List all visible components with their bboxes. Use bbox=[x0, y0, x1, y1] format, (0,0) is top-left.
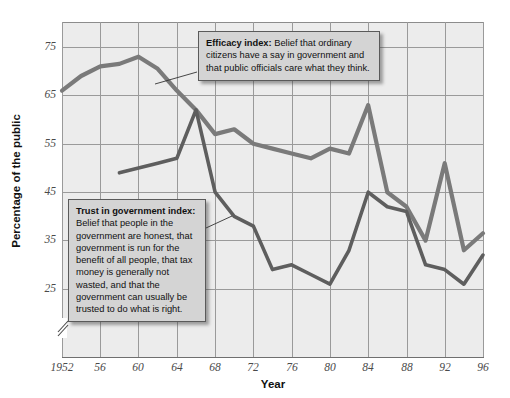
callout-efficacy-title: Efficacy index: bbox=[206, 38, 272, 48]
x-tick-1988: 88 bbox=[389, 361, 425, 373]
x-tick-1968: 68 bbox=[197, 361, 233, 373]
y-tick-75: 75 bbox=[28, 40, 56, 52]
x-tick-1960: 60 bbox=[120, 361, 156, 373]
chart-figure: 75 65 55 45 35 25 1952 56 60 64 68 72 76… bbox=[0, 0, 510, 398]
x-tick-1996: 96 bbox=[465, 361, 501, 373]
y-axis-title: Percentage of the public bbox=[10, 101, 22, 261]
x-tick-1972: 72 bbox=[235, 361, 271, 373]
x-tick-1964: 64 bbox=[159, 361, 195, 373]
y-tick-65: 65 bbox=[28, 88, 56, 100]
leader-line-trust bbox=[206, 216, 232, 228]
y-tick-35: 35 bbox=[28, 233, 56, 245]
x-tick-1984: 84 bbox=[350, 361, 386, 373]
x-tick-1992: 92 bbox=[427, 361, 463, 373]
callout-trust: Trust in government index: Belief that p… bbox=[68, 199, 206, 322]
y-tick-25: 25 bbox=[28, 282, 56, 294]
callout-trust-body: Belief that people in the government are… bbox=[76, 218, 192, 314]
callout-trust-title: Trust in government index: bbox=[76, 206, 195, 216]
y-axis-ticks: 75 65 55 45 35 25 bbox=[20, 0, 56, 398]
x-axis-title: Year bbox=[62, 378, 484, 390]
leader-line-efficacy bbox=[155, 72, 197, 84]
y-tick-55: 55 bbox=[28, 137, 56, 149]
callout-efficacy: Efficacy index: Belief that ordinary cit… bbox=[198, 31, 380, 81]
x-tick-1976: 76 bbox=[274, 361, 310, 373]
x-tick-1956: 56 bbox=[82, 361, 118, 373]
x-axis-ticks: 1952 56 60 64 68 72 76 80 84 88 92 96 bbox=[0, 361, 510, 379]
x-tick-1980: 80 bbox=[312, 361, 348, 373]
x-tick-1952: 1952 bbox=[42, 361, 82, 373]
y-tick-45: 45 bbox=[28, 185, 56, 197]
